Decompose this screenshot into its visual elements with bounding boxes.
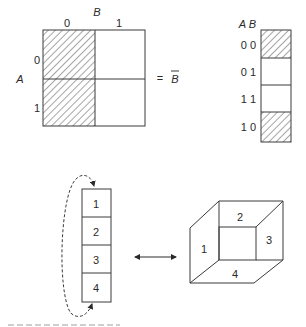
shaded-row-00 xyxy=(261,30,291,58)
col-label-0: 0 xyxy=(64,17,70,29)
karnaugh-diagram: B 0 1 A 0 1 = B A B 0 0 0 1 1 1 1 0 1 2 … xyxy=(0,0,306,327)
equals-sign: = xyxy=(157,72,163,84)
shaded-row-10 xyxy=(261,112,291,142)
strip-row-label: 0 0 xyxy=(241,39,256,51)
strip-row-label: 0 1 xyxy=(241,66,256,78)
row-label-0: 0 xyxy=(34,54,40,66)
column-cell-2: 2 xyxy=(93,226,99,238)
col-variable-label: B xyxy=(93,6,100,18)
strip-row-label: 1 0 xyxy=(241,121,256,133)
cube-face-2: 2 xyxy=(237,211,243,223)
strip-row-label: 1 1 xyxy=(241,93,256,105)
row-label-1: 1 xyxy=(34,102,40,114)
result-b-bar: B xyxy=(171,73,178,85)
cube-face-3: 3 xyxy=(266,234,272,246)
wraparound-arrow xyxy=(62,175,94,316)
shaded-column xyxy=(43,30,95,126)
cube-diagram: 1 2 3 4 xyxy=(190,201,283,283)
cube-face-1: 1 xyxy=(201,243,207,255)
column-cell-4: 4 xyxy=(93,282,99,294)
strip-header: A B xyxy=(238,18,256,30)
column-cell-3: 3 xyxy=(93,254,99,266)
cell-column: 1 2 3 4 xyxy=(62,175,111,316)
row-variable-label: A xyxy=(15,73,23,85)
cube-face-4: 4 xyxy=(232,268,238,280)
karnaugh-map: B 0 1 A 0 1 = B xyxy=(15,6,179,126)
col-label-1: 1 xyxy=(116,17,122,29)
gray-code-strip: A B 0 0 0 1 1 1 1 0 xyxy=(238,18,291,142)
column-cell-1: 1 xyxy=(93,198,99,210)
